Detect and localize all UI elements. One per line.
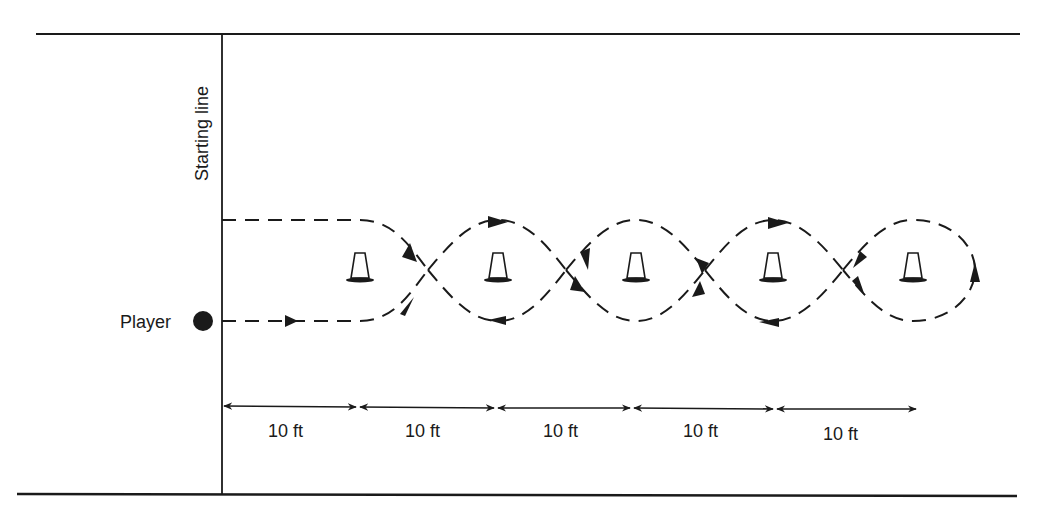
weave-path bbox=[222, 220, 975, 321]
arrow-icon bbox=[282, 315, 298, 327]
cone-icon bbox=[484, 253, 512, 283]
bottom-boundary-line bbox=[17, 494, 1017, 496]
distance-label: 10 ft bbox=[823, 424, 858, 444]
arrow-icon bbox=[853, 251, 867, 268]
player-label: Player bbox=[120, 312, 171, 332]
cones bbox=[346, 253, 927, 283]
arrow-icon bbox=[402, 243, 417, 262]
distance-label: 10 ft bbox=[268, 421, 303, 441]
cone-icon bbox=[346, 253, 374, 283]
cone-weave-drill-diagram: Starting line Player bbox=[0, 0, 1055, 529]
arrow-icon bbox=[852, 276, 865, 296]
distance-label: 10 ft bbox=[405, 421, 440, 441]
starting-line-label: Starting line bbox=[192, 86, 212, 181]
arrow-icon bbox=[488, 316, 506, 325]
distance-markers bbox=[224, 406, 916, 409]
cone-icon bbox=[899, 253, 927, 283]
cone-icon bbox=[622, 253, 650, 283]
arrow-icon bbox=[400, 297, 414, 316]
arrow-icon bbox=[488, 216, 508, 228]
arrow-icon bbox=[768, 217, 788, 229]
distance-label: 10 ft bbox=[543, 421, 578, 441]
arrow-icon bbox=[970, 262, 980, 282]
distance-label: 10 ft bbox=[683, 421, 718, 441]
distance-labels: 10 ft 10 ft 10 ft 10 ft 10 ft bbox=[268, 421, 858, 444]
cone-icon bbox=[759, 253, 787, 283]
player-marker bbox=[193, 311, 213, 331]
arrow-icon bbox=[692, 281, 705, 297]
